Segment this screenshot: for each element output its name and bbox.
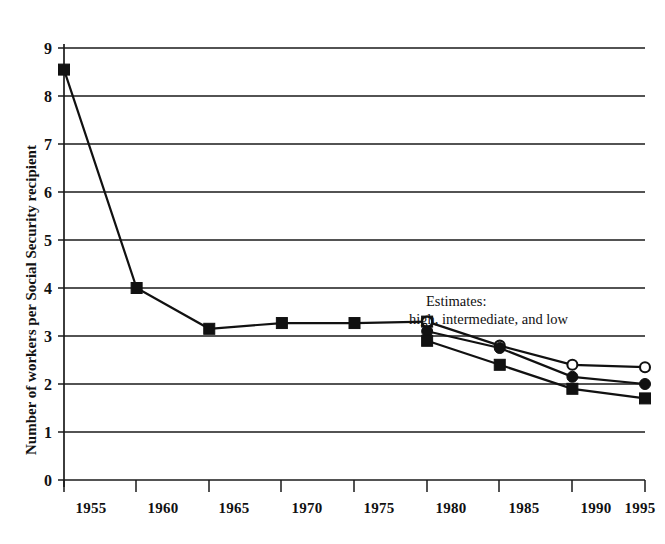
estimates-annotation: Estimates: high, intermediate, and low — [409, 293, 569, 327]
marker-filled-square — [567, 383, 578, 394]
marker-open-circle — [567, 360, 577, 370]
marker-filled-square — [59, 64, 70, 75]
y-tickmarks — [58, 48, 64, 480]
series-lines — [64, 70, 645, 399]
y-tick-label-9: 9 — [44, 40, 52, 57]
workers-per-recipient-line-chart: 9 8 7 6 5 4 3 2 1 0 Number of workers pe… — [0, 0, 665, 544]
marker-filled-circle — [640, 379, 651, 390]
marker-filled-square — [204, 323, 215, 334]
marker-filled-square — [640, 393, 651, 404]
y-tick-labels: 9 8 7 6 5 4 3 2 1 0 — [44, 40, 52, 489]
gridlines — [64, 48, 645, 480]
x-tick-label-1970: 1970 — [291, 500, 322, 516]
y-tick-label-4: 4 — [44, 280, 52, 297]
y-tick-label-3: 3 — [44, 328, 52, 345]
x-tick-label-1990: 1990 — [580, 500, 611, 516]
y-tick-label-5: 5 — [44, 232, 52, 249]
marker-filled-square — [276, 318, 287, 329]
series-line-low — [427, 341, 645, 399]
marker-filled-circle — [494, 343, 505, 354]
series-line-high — [427, 322, 645, 368]
estimates-annotation-line1: Estimates: — [426, 293, 486, 309]
marker-filled-square — [494, 359, 505, 370]
marker-open-circle — [640, 362, 650, 372]
y-axis-title: Number of workers per Social Security re… — [23, 145, 39, 455]
x-tick-label-1960: 1960 — [147, 500, 178, 516]
chart-page: 9 8 7 6 5 4 3 2 1 0 Number of workers pe… — [0, 0, 665, 544]
y-tick-label-6: 6 — [44, 184, 52, 201]
y-tick-label-2: 2 — [44, 376, 52, 393]
y-tick-label-0: 0 — [44, 472, 52, 489]
marker-filled-square — [131, 283, 142, 294]
x-tick-label-1975: 1975 — [363, 500, 394, 516]
marker-filled-square — [422, 335, 433, 346]
y-tick-label-8: 8 — [44, 88, 52, 105]
x-tick-label-1985: 1985 — [508, 500, 539, 516]
marker-filled-square — [349, 318, 360, 329]
y-tick-label-1: 1 — [44, 424, 52, 441]
x-tickmarks — [64, 480, 645, 492]
x-tick-label-1965: 1965 — [218, 500, 249, 516]
x-tick-label-1995: 1995 — [624, 500, 655, 516]
series-markers — [59, 64, 651, 404]
y-tick-label-7: 7 — [44, 136, 52, 153]
marker-filled-circle — [567, 371, 578, 382]
x-tick-labels: 1955 1960 1965 1970 1975 1980 1985 1990 … — [75, 500, 655, 516]
estimates-annotation-line2: high, intermediate, and low — [409, 311, 569, 327]
x-tick-label-1980: 1980 — [435, 500, 466, 516]
series-line-historical — [64, 70, 427, 329]
x-tick-label-1955: 1955 — [75, 500, 106, 516]
